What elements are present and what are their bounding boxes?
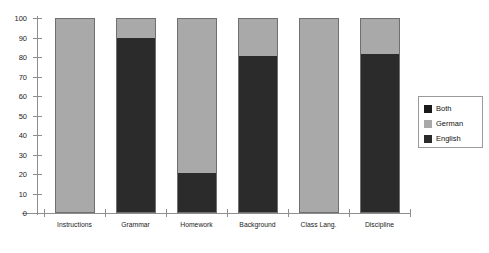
x-axis-category-label: Class Lang.	[288, 222, 349, 229]
legend-swatch-icon	[424, 105, 432, 113]
y-axis-tick-label: 10	[19, 191, 27, 199]
y-axis-tick: 80	[33, 57, 42, 58]
bar-segment-english	[239, 56, 277, 212]
bar-segment-english	[361, 54, 399, 212]
bar-segment-german	[178, 19, 216, 173]
y-axis-tick: 0	[33, 213, 42, 214]
bar-segment-english	[117, 38, 155, 212]
y-axis-tick: 10	[33, 194, 42, 195]
bar-group	[177, 18, 217, 213]
legend-item-label: Both	[436, 105, 451, 113]
stacked-bar-chart: 0102030405060708090100 InstructionsGramm…	[0, 0, 489, 253]
bar-segment-german	[239, 19, 277, 56]
chart-legend: BothGermanEnglish	[418, 96, 483, 148]
bar-group	[238, 18, 278, 213]
y-axis-tick-label: 80	[19, 54, 27, 62]
bar-segment-german	[300, 19, 338, 212]
y-axis-tick-label: 20	[19, 171, 27, 179]
y-axis-tick-label: 50	[19, 113, 27, 121]
y-axis-tick-label: 30	[19, 152, 27, 160]
legend-item-label: German	[436, 120, 463, 128]
y-axis-tick: 20	[33, 174, 42, 175]
stacked-bar[interactable]	[116, 18, 156, 213]
bar-group	[360, 18, 400, 213]
bar-segment-german	[56, 19, 94, 212]
legend-item[interactable]: Both	[424, 101, 482, 116]
x-axis-category-label: Homework	[166, 222, 227, 229]
y-axis-tick: 30	[33, 155, 42, 156]
y-axis-tick-label: 70	[19, 74, 27, 82]
y-axis-tick-label: 90	[19, 35, 27, 43]
y-axis-tick-label: 40	[19, 132, 27, 140]
y-axis-tick: 60	[33, 96, 42, 97]
x-axis-category-label: Instructions	[44, 222, 105, 229]
bar-group	[55, 18, 95, 213]
y-axis-tick-label: 100	[14, 15, 27, 23]
x-axis-line	[22, 213, 411, 214]
x-axis-category-label: Discipline	[349, 222, 410, 229]
stacked-bar[interactable]	[360, 18, 400, 213]
x-axis-category-label: Background	[227, 222, 288, 229]
y-axis-tick: 40	[33, 135, 42, 136]
y-axis-tick-label: 0	[23, 210, 27, 218]
bar-segment-english	[178, 173, 216, 212]
y-axis-tick: 90	[33, 38, 42, 39]
legend-item-label: English	[436, 135, 461, 143]
stacked-bar[interactable]	[55, 18, 95, 213]
y-axis-tick-label: 60	[19, 93, 27, 101]
bar-group	[299, 18, 339, 213]
stacked-bar[interactable]	[299, 18, 339, 213]
x-axis-tick	[410, 209, 411, 217]
y-axis-tick: 100	[33, 18, 42, 19]
legend-item[interactable]: German	[424, 116, 482, 131]
y-axis-tick: 70	[33, 77, 42, 78]
bar-group	[116, 18, 156, 213]
legend-swatch-icon	[424, 135, 432, 143]
legend-item[interactable]: English	[424, 131, 482, 146]
bar-segment-german	[117, 19, 155, 38]
plot-area	[44, 18, 410, 213]
stacked-bar[interactable]	[177, 18, 217, 213]
stacked-bar[interactable]	[238, 18, 278, 213]
y-axis-tick: 50	[33, 116, 42, 117]
x-axis-category-label: Grammar	[105, 222, 166, 229]
legend-swatch-icon	[424, 120, 432, 128]
bar-segment-german	[361, 19, 399, 54]
